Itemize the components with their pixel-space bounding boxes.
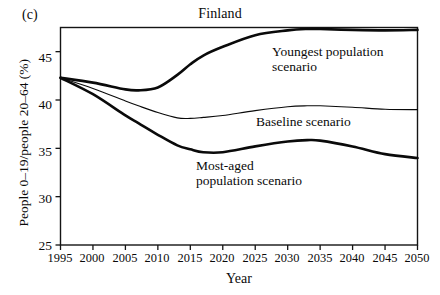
y-tick-marks (56, 52, 61, 245)
figure-panel-c: (c) Finland People 0–19/people 20–64 (%)… (0, 0, 440, 295)
series-annotation-most-aged: Most-aged population scenario (196, 158, 302, 188)
x-tick-marks (61, 245, 418, 250)
series-line-2 (61, 78, 418, 158)
series-line-1 (61, 78, 418, 119)
series-annotation-youngest: Youngest population scenario (272, 44, 384, 74)
series-annotation-baseline: Baseline scenario (256, 114, 351, 129)
